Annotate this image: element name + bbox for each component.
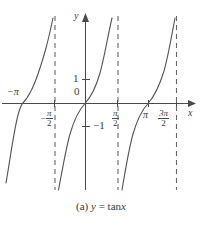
y-tick-label-one: 1 <box>73 73 79 84</box>
tangent-function-figure: y x 0 1 −1 −π −π2 π2 π 3π2 (a) y = tanx <box>0 0 202 230</box>
x-axis-label: x <box>188 108 192 118</box>
x-tick-label-neg-pi: −π <box>7 87 19 97</box>
fraction-denominator: 2 <box>112 119 119 128</box>
fraction-denominator: 2 <box>158 119 169 128</box>
figure-caption: (a) y = tanx <box>0 200 202 212</box>
x-tick-label-three-half-pi: 3π2 <box>158 109 169 128</box>
origin-label: 0 <box>74 86 80 97</box>
x-tick-label-half-pi: π2 <box>112 109 119 128</box>
fraction-three-half-pi: 3π2 <box>158 109 169 128</box>
y-axis-label: y <box>74 11 78 21</box>
caption-lhs: y <box>91 200 96 212</box>
fraction-half-pi: π2 <box>112 109 119 128</box>
fraction-denominator: 2 <box>46 119 53 128</box>
caption-function-name: tan <box>108 200 121 212</box>
tangent-branch-left <box>6 18 53 183</box>
fraction-half-pi-negative: π2 <box>46 109 53 128</box>
caption-index: (a) <box>76 200 88 212</box>
y-axis <box>82 13 89 190</box>
tangent-plot-svg <box>0 0 202 198</box>
x-tick-label-neg-half-pi: −π2 <box>40 109 53 128</box>
x-tick-label-pi: π <box>143 110 148 120</box>
x-axis <box>2 100 196 107</box>
caption-equals: = <box>99 200 105 212</box>
caption-variable: x <box>121 200 126 212</box>
y-tick-label-negative-one: −1 <box>93 120 105 131</box>
